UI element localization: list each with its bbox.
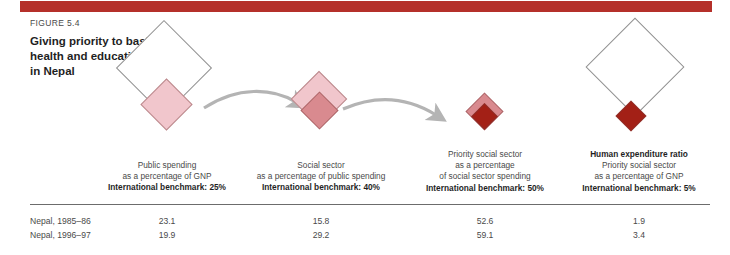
benchmark-priority-social-sector: International benchmark: 50% [414,183,556,194]
caption-human-expenditure-line-1: Priority social sector [568,160,710,171]
diagram-stage [0,12,730,162]
figure-container: FIGURE 5.4 Giving priority to basic heal… [0,0,730,255]
arrow-step-2-to-3 [343,99,436,115]
benchmark-human-expenditure-ratio: International benchmark: 5% [568,183,710,194]
caption-priority-social-sector: Priority social sector as a percentage o… [414,149,556,194]
caption-priority-line-3: of social sector spending [414,171,556,182]
table-row: Nepal, 1996–97 19.9 29.2 59.1 3.4 [0,230,730,244]
caption-human-expenditure-header: Human expenditure ratio [568,149,710,160]
caption-priority-line-2: as a percentage [414,160,556,171]
caption-social-sector-line-1: Social sector [253,160,389,171]
table-cell-human-expenditure-ratio: 1.9 [579,216,699,226]
caption-public-spending-line-1: Public spending [103,160,231,171]
table-cell-priority-social-sector: 59.1 [425,230,545,240]
caption-human-expenditure-line-2: as a percentage of GNP [568,171,710,182]
table-cell-priority-social-sector: 52.6 [425,216,545,226]
caption-human-expenditure-ratio: Human expenditure ratio Priority social … [568,149,710,194]
top-accent-rule [20,1,712,12]
diamond-outline-human-expenditure [586,18,685,117]
caption-social-sector: Social sector as a percentage of public … [253,160,389,194]
benchmark-social-sector: International benchmark: 40% [253,182,389,193]
table-cell-public-spending: 19.9 [107,230,227,240]
table-top-rule [30,204,710,205]
caption-public-spending: Public spending as a percentage of GNP I… [103,160,231,194]
arrow-step-1-to-2 [204,91,296,108]
table-cell-social-sector: 15.8 [261,216,381,226]
caption-public-spending-line-2: as a percentage of GNP [103,171,231,182]
table-row: Nepal, 1985–86 23.1 15.8 52.6 1.9 [0,216,730,230]
table-cell-human-expenditure-ratio: 3.4 [579,230,699,240]
table-cell-social-sector: 29.2 [261,230,381,240]
table-cell-public-spending: 23.1 [107,216,227,226]
caption-priority-line-1: Priority social sector [414,149,556,160]
caption-social-sector-line-2: as a percentage of public spending [253,171,389,182]
benchmark-public-spending: International benchmark: 25% [103,182,231,193]
